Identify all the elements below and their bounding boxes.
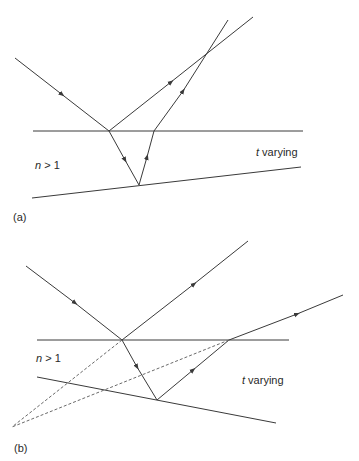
bottom-surface-a <box>32 167 301 198</box>
caption-a: (a) <box>13 212 26 223</box>
reflected-ray-b <box>122 241 248 340</box>
thickness-label-b: t varying <box>242 375 284 386</box>
reflected-ray-a <box>109 17 253 131</box>
n-condition: > 1 <box>41 159 60 171</box>
medium-label-a: n > 1 <box>35 160 60 171</box>
internal-ray-up-b <box>157 340 229 400</box>
thin-film-diagram <box>0 0 359 461</box>
t-description: varying <box>259 146 298 158</box>
t-description: varying <box>245 374 284 386</box>
virtual-ray-extension-1 <box>12 340 122 427</box>
n-condition: > 1 <box>42 352 61 364</box>
emerging-ray-b <box>229 295 343 340</box>
thickness-label-a: t varying <box>256 147 298 158</box>
internal-ray-up-a <box>139 131 154 185</box>
refracted-ray-down-b <box>122 340 157 400</box>
emerging-ray-a <box>154 20 228 131</box>
incident-ray-b <box>26 266 122 340</box>
incident-ray-a <box>15 58 109 131</box>
panel-b <box>12 241 343 427</box>
refracted-ray-down-a <box>109 131 139 185</box>
caption-b: (b) <box>14 443 27 454</box>
medium-label-b: n > 1 <box>36 353 61 364</box>
